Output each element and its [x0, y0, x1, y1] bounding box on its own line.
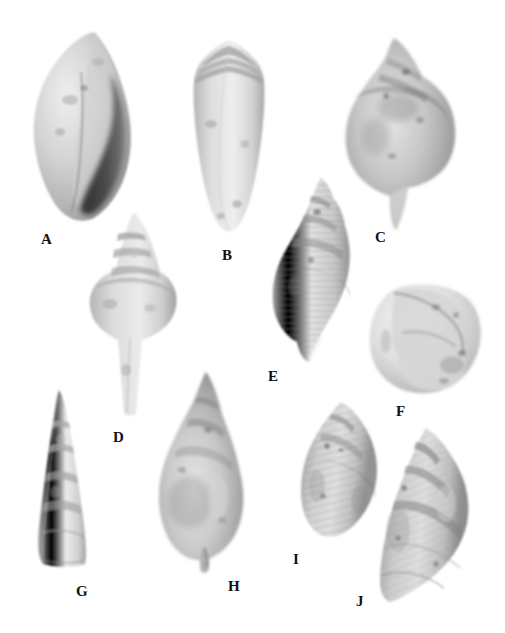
specimen-label-e: E — [268, 369, 279, 384]
specimen-label-d: D — [113, 430, 124, 445]
specimen-f — [366, 281, 484, 397]
specimen-label-b: B — [222, 248, 233, 263]
specimen-label-h: H — [228, 579, 240, 594]
specimen-b — [181, 36, 277, 234]
specimen-e — [265, 176, 357, 366]
specimen-label-f: F — [396, 404, 406, 419]
specimen-j — [368, 426, 474, 606]
specimen-a — [24, 28, 140, 224]
specimen-label-a: A — [41, 232, 52, 247]
specimen-plate: A — [0, 0, 505, 633]
specimen-label-c: C — [375, 230, 386, 245]
specimen-g — [25, 388, 95, 570]
specimen-label-j: J — [356, 594, 364, 609]
specimen-label-g: G — [76, 584, 88, 599]
specimen-h — [152, 370, 252, 576]
specimen-label-i: I — [293, 552, 299, 567]
